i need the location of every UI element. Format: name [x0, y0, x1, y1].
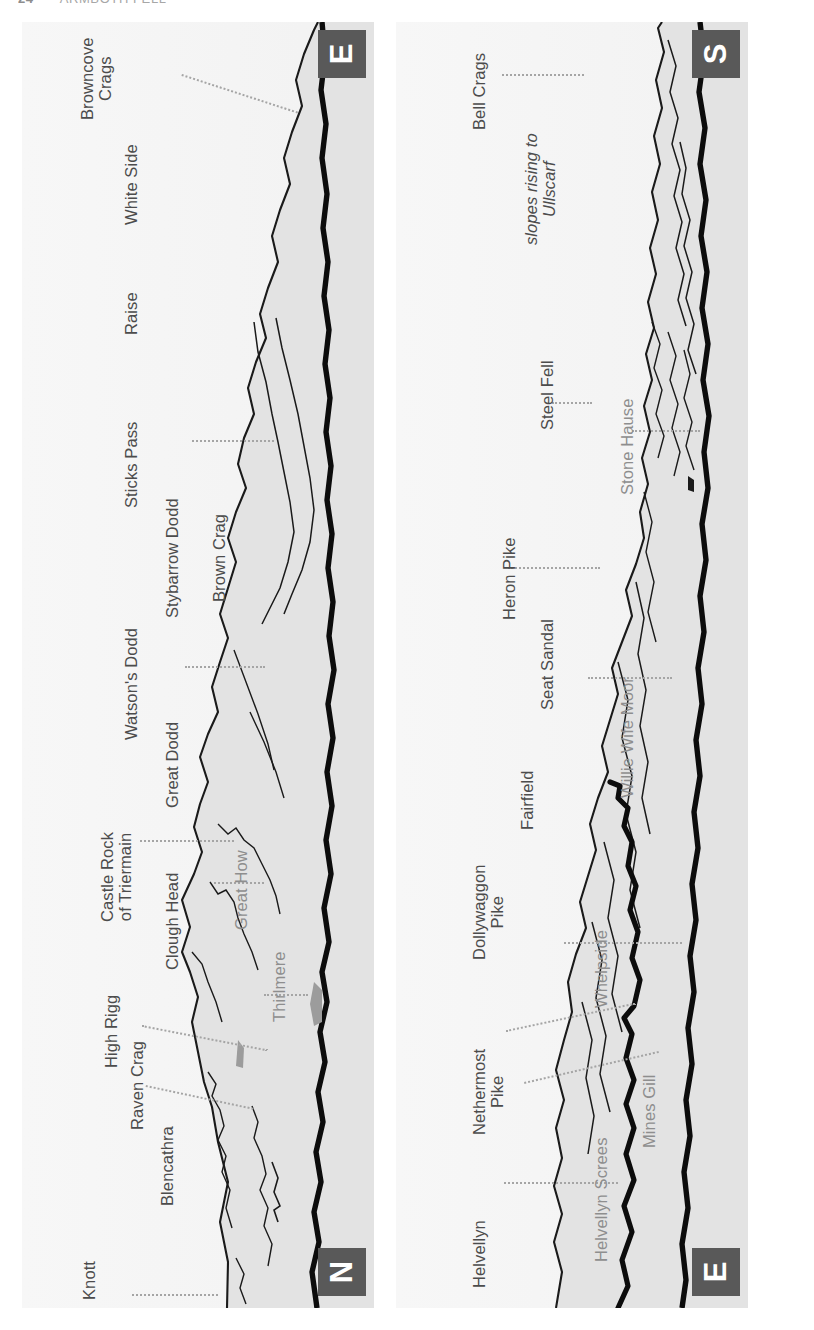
page-folio: 24: [18, 0, 34, 6]
label-castle-rock-of-triermain: Castle Rock of Triermain: [98, 832, 135, 922]
running-head-title: ARMBOTH FELL: [60, 0, 167, 6]
compass-box-upper-east: E: [318, 30, 366, 78]
label-bell-crags: Bell Crags: [470, 53, 488, 130]
compass-box-lower-south: S: [692, 30, 740, 78]
leader-sticks-pass: [192, 440, 274, 442]
leader-castle-rock: [140, 840, 234, 842]
label-brown-crag: Brown Crag: [210, 514, 228, 602]
label-browncove-crags: Browncove Crags: [78, 37, 115, 120]
running-head: 24ARMBOTH FELL: [18, 0, 318, 13]
label-clough-head: Clough Head: [163, 873, 181, 970]
leader-willie-wife-moor: [564, 942, 682, 944]
label-nethermost-pike: Nethermost Pike: [470, 1049, 507, 1135]
label-stybarrow-dodd: Stybarrow Dodd: [163, 498, 181, 618]
panorama-upper-artwork: [22, 22, 374, 1308]
label-thirlmere: Thirlmere: [270, 951, 288, 1022]
label-willie-wife-moor: Willie Wife Moor: [618, 677, 636, 798]
panorama-panel-upper: [22, 22, 374, 1308]
label-sticks-pass: Sticks Pass: [122, 422, 140, 508]
panorama-lower-artwork: [396, 22, 748, 1308]
label-fairfield: Fairfield: [518, 770, 536, 830]
label-raise: Raise: [122, 292, 140, 335]
compass-letter: N: [318, 1261, 366, 1283]
compass-box-lower-east: E: [692, 1248, 740, 1296]
leader-knott: [132, 1294, 218, 1296]
panorama-panel-lower: [396, 22, 748, 1308]
label-helvellyn-screes: Helvellyn Screes: [592, 1138, 610, 1262]
label-great-dodd: Great Dodd: [163, 722, 181, 808]
label-stone-hause: Stone Hause: [618, 399, 636, 496]
label-blencathra: Blencathra: [158, 1126, 176, 1206]
label-steel-fell: Steel Fell: [538, 360, 556, 430]
label-high-rigg: High Rigg: [102, 995, 120, 1068]
label-raven-crag: Raven Crag: [128, 1041, 146, 1130]
label-great-how: Great How: [232, 850, 250, 930]
label-mines-gill: Mines Gill: [640, 1075, 658, 1148]
label-white-side: White Side: [122, 144, 140, 225]
label-whelpside: Whelpside: [592, 930, 610, 1008]
leader-steel-fell: [552, 402, 592, 404]
compass-box-upper-north: N: [318, 1248, 366, 1296]
label-dollywaggon-pike: Dollywaggon Pike: [470, 864, 507, 960]
label-knott: Knott: [80, 1261, 98, 1300]
leader-watsons-dodd: [185, 666, 265, 668]
compass-letter: E: [692, 1262, 740, 1283]
compass-letter: E: [318, 44, 366, 65]
leader-bell-crags: [502, 74, 584, 76]
label-slopes-rising-to-ullscarf: slopes rising to Ullscarf: [522, 133, 559, 245]
label-helvellyn: Helvellyn: [470, 1220, 488, 1288]
leader-heron-pike: [508, 567, 600, 569]
label-seat-sandal: Seat Sandal: [538, 619, 556, 710]
label-watsons-dodd: Watson's Dodd: [122, 628, 140, 740]
compass-letter: S: [692, 44, 740, 65]
label-heron-pike: Heron Pike: [500, 537, 518, 620]
leader-stone-hause: [632, 430, 700, 432]
